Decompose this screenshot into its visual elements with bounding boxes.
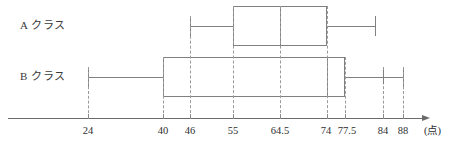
axis-label-24: 24 [83, 126, 94, 137]
guide-46 [190, 16, 191, 118]
guide-55 [233, 6, 234, 118]
boxplot-figure: A クラス B クラス 24 40 46 55 64.5 [0, 0, 454, 147]
axis-label-84: 84 [378, 126, 389, 137]
guide-40 [163, 57, 164, 118]
axis-unit-label: (点) [424, 126, 441, 137]
axis-label-645: 64.5 [271, 126, 289, 137]
axis-tick-24 [88, 114, 89, 119]
axis-tick-55 [233, 114, 234, 119]
axis-label-775: 77.5 [338, 126, 356, 137]
right-arrow-icon [422, 115, 430, 121]
boxplot-a-max-cap [375, 16, 376, 36]
boxplot-a-lower-whisker [190, 26, 233, 27]
axis-tick-46 [190, 114, 191, 119]
x-axis-line [8, 118, 424, 119]
axis-tick-84 [383, 114, 384, 119]
axis-tick-645 [280, 114, 281, 119]
axis-label-40: 40 [158, 126, 169, 137]
boxplot-b-84-marker [383, 70, 384, 84]
axis-tick-74 [327, 114, 328, 119]
axis-tick-88 [403, 114, 404, 119]
axis-label-46: 46 [185, 126, 196, 137]
axis-label-55: 55 [228, 126, 239, 137]
guide-645 [280, 6, 281, 118]
guide-775 [345, 57, 346, 118]
axis-label-74: 74 [321, 126, 332, 137]
guide-74 [327, 6, 328, 118]
boxplot-b-upper-whisker [345, 77, 403, 78]
guide-88 [403, 67, 404, 118]
guide-24 [88, 67, 89, 118]
axis-tick-40 [163, 114, 164, 119]
series-label-b: B クラス [20, 71, 66, 82]
boxplot-a-upper-whisker [327, 26, 375, 27]
series-label-a: A クラス [20, 20, 66, 31]
boxplot-b-lower-whisker [88, 77, 163, 78]
axis-tick-775 [345, 114, 346, 119]
axis-label-88: 88 [398, 126, 409, 137]
